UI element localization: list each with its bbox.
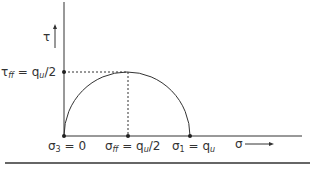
eq: = q xyxy=(185,139,210,153)
sigma3-label: σ3 = 0 xyxy=(48,139,86,157)
tau-axis-label: τ xyxy=(43,30,50,44)
tail: = 0 xyxy=(61,139,86,153)
sigma-axis-label: σ xyxy=(235,137,243,151)
sigma1-label: σ1 = qu xyxy=(172,139,215,157)
sym: σ xyxy=(105,139,113,153)
sym: σ xyxy=(172,139,180,153)
sigma-ff-label: σff = qu/2 xyxy=(105,139,160,157)
eq: = q xyxy=(118,139,143,153)
eq: = q xyxy=(14,65,39,79)
tau-ff-label: τff = qu/2 xyxy=(1,65,56,83)
sigma-arrowhead-icon xyxy=(269,142,274,146)
sigma-ff-point xyxy=(126,134,130,138)
tail: /2 xyxy=(149,139,161,153)
sym: σ xyxy=(48,139,56,153)
mohr-circle xyxy=(64,72,190,136)
tau-ff-point xyxy=(62,70,66,74)
tail: /2 xyxy=(44,65,56,79)
tau-arrowhead-icon xyxy=(53,24,57,29)
sigma1-point xyxy=(188,134,192,138)
sigma3-point xyxy=(62,134,66,138)
sub2: u xyxy=(210,145,215,154)
